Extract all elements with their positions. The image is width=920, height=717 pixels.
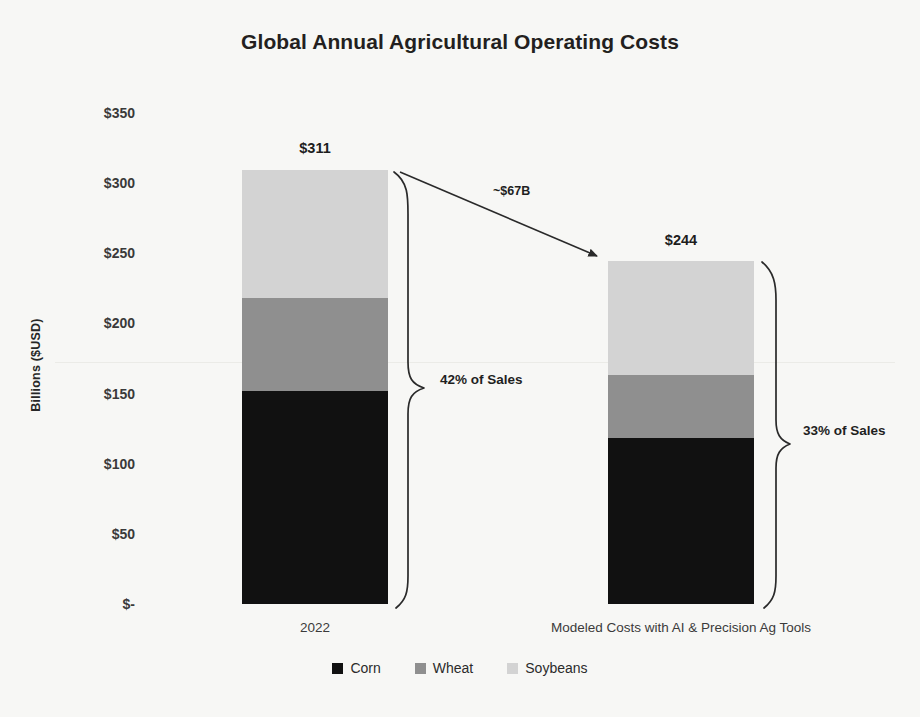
legend-item-wheat[interactable]: Wheat xyxy=(415,660,473,676)
y-tick-label: $50 xyxy=(65,526,135,542)
legend-label-corn: Corn xyxy=(350,660,380,676)
legend-swatch-wheat xyxy=(415,663,426,674)
x-axis-label-2022: 2022 xyxy=(242,620,388,635)
bar-segment-corn[interactable] xyxy=(608,438,754,604)
legend-item-soybeans[interactable]: Soybeans xyxy=(507,660,587,676)
bar-segment-wheat[interactable] xyxy=(242,298,388,391)
x-axis-label-modeled: Modeled Costs with AI & Precision Ag Too… xyxy=(520,620,842,635)
bar-column-2022[interactable] xyxy=(242,170,388,604)
annotation-delta-label: ~$67B xyxy=(493,184,530,198)
bar-segment-corn[interactable] xyxy=(242,391,388,604)
y-tick-label: $100 xyxy=(65,456,135,472)
plot-area: Billions ($USD) $350 $300 $250 $200 $150… xyxy=(0,0,920,717)
bar-column-modeled[interactable] xyxy=(608,261,754,604)
legend-item-corn[interactable]: Corn xyxy=(332,660,380,676)
right-brace-icon xyxy=(762,262,790,608)
legend-swatch-soybeans xyxy=(507,663,518,674)
left-brace-icon xyxy=(394,172,424,608)
y-tick-label: $150 xyxy=(65,386,135,402)
annotation-right-brace-label: 33% of Sales xyxy=(803,423,886,438)
bar-segment-wheat[interactable] xyxy=(608,375,754,438)
y-tick-label: $250 xyxy=(65,245,135,261)
bar-total-label-modeled: $244 xyxy=(608,232,754,248)
legend-label-wheat: Wheat xyxy=(433,660,473,676)
legend-label-soybeans: Soybeans xyxy=(525,660,587,676)
y-tick-label: $200 xyxy=(65,315,135,331)
y-tick-label: $- xyxy=(65,596,135,612)
chart-legend: Corn Wheat Soybeans xyxy=(0,660,920,676)
bar-segment-soybeans[interactable] xyxy=(242,170,388,298)
y-tick-label: $300 xyxy=(65,175,135,191)
gridline-faint xyxy=(55,362,895,363)
y-axis-title: Billions ($USD) xyxy=(29,285,43,445)
y-axis-ticks: $350 $300 $250 $200 $150 $100 $50 $- xyxy=(65,0,135,717)
annotation-left-brace-label: 42% of Sales xyxy=(440,372,523,387)
legend-swatch-corn xyxy=(332,663,343,674)
chart-canvas: Global Annual Agricultural Operating Cos… xyxy=(0,0,920,717)
y-tick-label: $350 xyxy=(65,105,135,121)
bar-segment-soybeans[interactable] xyxy=(608,261,754,375)
bar-total-label-2022: $311 xyxy=(242,140,388,156)
annotation-overlay xyxy=(0,0,920,717)
